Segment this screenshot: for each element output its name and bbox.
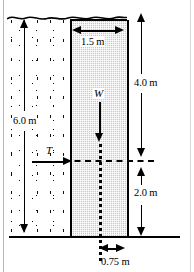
width-dimension-line [77, 30, 117, 32]
frame-right-rule [190, 0, 191, 272]
lower-dimension-line-top [141, 176, 142, 185]
width-arrow-right [115, 26, 124, 34]
retaining-wall-diagram: 1.5 m 4.0 m 2.0 m 6.0 m T W 0.75 m [0, 0, 194, 272]
upper-dimension-line-bottom [141, 93, 142, 150]
thrust-force-label: T [46, 145, 52, 156]
width-label: 1.5 m [80, 36, 105, 47]
soil-height-label: 6.0 m [12, 115, 37, 126]
upper-dimension-arrow-down [137, 148, 145, 157]
thrust-force-line [32, 161, 66, 163]
lower-dimension-arrow-up [137, 167, 145, 176]
lower-dimension-arrow-down [137, 227, 145, 236]
soil-height-arrow-down [20, 224, 28, 233]
width-arrow-left [72, 26, 81, 34]
weight-force-arrowhead [95, 133, 103, 142]
offset-arrow-right [116, 244, 125, 252]
soil-height-arrow-up [20, 19, 28, 28]
upper-dimension-line-top [141, 22, 142, 74]
ground-base-line [9, 236, 180, 238]
lower-dimension-label: 2.0 m [134, 187, 157, 198]
frame-left-rule [3, 0, 4, 272]
horizontal-reference-dashed-line [64, 160, 154, 162]
soil-height-line-top [24, 28, 25, 111]
soil-mass-stipple-overlay [9, 20, 70, 237]
upper-dimension-label: 4.0 m [134, 77, 157, 88]
weight-force-label: W [93, 88, 104, 99]
offset-arrow-left [99, 244, 108, 252]
soil-height-line-bottom [24, 131, 25, 224]
upper-dimension-arrow-up [137, 13, 145, 22]
offset-label: 0.75 m [101, 256, 130, 267]
lower-dimension-line-bottom [141, 205, 142, 227]
block-top-edge [70, 19, 127, 21]
